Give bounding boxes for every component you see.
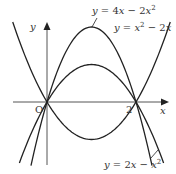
leader-line-curve-a bbox=[92, 18, 97, 27]
diagram-canvas: y x O 2 y = 4x − 2x2 y = x2 − 2x y = 2x … bbox=[0, 0, 176, 174]
label-curve-c: y = 2x − x2 bbox=[103, 158, 161, 170]
y-axis-label: y bbox=[29, 21, 36, 32]
tick-label-2: 2 bbox=[126, 104, 132, 115]
leader-line-curve-c bbox=[151, 150, 158, 158]
y-axis-arrow-icon bbox=[44, 22, 51, 30]
origin-label: O bbox=[35, 104, 43, 115]
label-curve-a: y = 4x − 2x2 bbox=[91, 4, 156, 16]
label-curve-b: y = x2 − 2x bbox=[113, 21, 172, 33]
x-axis-label: x bbox=[160, 105, 166, 116]
curve-4x-minus-2x2 bbox=[31, 27, 152, 166]
